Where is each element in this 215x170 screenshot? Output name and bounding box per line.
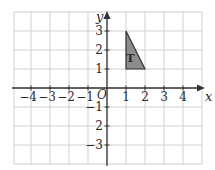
y-tick-label: 2 (95, 119, 103, 133)
x-axis-label: x (205, 89, 213, 104)
y-tick-label: −3 (85, 138, 103, 152)
axes (12, 11, 205, 166)
coordinate-grid-diagram: T −4−3−2−11234321−12−3 x y O (0, 0, 215, 170)
x-tick-label: −3 (38, 90, 56, 104)
x-tick-label: −4 (19, 90, 37, 104)
y-tick-label: 1 (95, 62, 103, 76)
x-tick-label: −2 (57, 90, 75, 104)
x-axis-arrow-icon (197, 85, 205, 92)
y-axis-label: y (95, 9, 104, 24)
origin-label: O (97, 88, 107, 102)
y-tick-label: 3 (95, 24, 103, 38)
x-tick-label: 1 (122, 90, 130, 104)
x-tick-label: 3 (160, 90, 168, 104)
x-tick-label: 4 (179, 90, 187, 104)
y-tick-label: 2 (95, 43, 103, 57)
shape-label: T (126, 52, 135, 65)
y-tick-label: −1 (85, 100, 103, 114)
x-tick-label: 2 (141, 90, 149, 104)
